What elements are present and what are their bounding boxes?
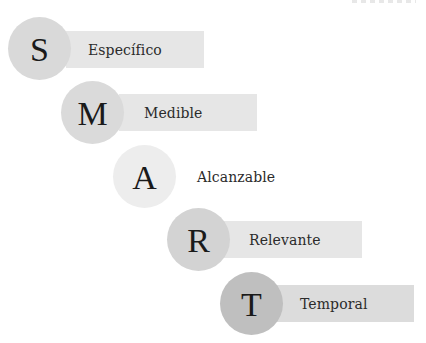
label-relevante: Relevante bbox=[249, 232, 321, 248]
label-temporal: Temporal bbox=[300, 296, 368, 312]
label-bar-r: Relevante bbox=[224, 221, 362, 258]
label-medible: Medible bbox=[144, 105, 202, 121]
label-alcanzable: Alcanzable bbox=[197, 169, 275, 185]
letter-a: A bbox=[132, 161, 157, 195]
letter-circle-m: M bbox=[61, 81, 124, 144]
label-especifico: Específico bbox=[88, 42, 162, 58]
letter-circle-a: A bbox=[113, 145, 176, 208]
clipped-text-artifact bbox=[352, 0, 416, 3]
letter-circle-t: T bbox=[220, 272, 283, 335]
letter-t: T bbox=[241, 288, 262, 322]
label-bar-t: Temporal bbox=[277, 285, 414, 322]
label-bar-s: Específico bbox=[66, 31, 204, 68]
letter-r: R bbox=[187, 224, 210, 258]
label-bar-m: Medible bbox=[119, 94, 257, 131]
label-bar-a: Alcanzable bbox=[172, 158, 310, 195]
letter-circle-s: S bbox=[8, 17, 71, 80]
letter-circle-r: R bbox=[167, 208, 230, 271]
letter-m: M bbox=[77, 97, 107, 131]
letter-s: S bbox=[30, 33, 49, 67]
